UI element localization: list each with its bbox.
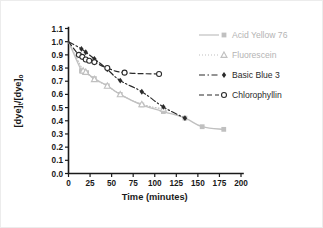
- legend-marker-2: [222, 72, 226, 78]
- legend-label-chlorophyllin[interactable]: Chlorophyllin: [232, 90, 282, 100]
- y-tick-label: 0.9: [52, 51, 64, 60]
- x-tick-label: 25: [86, 179, 96, 188]
- axis-lines: [69, 28, 244, 174]
- x-tick-label: 75: [129, 179, 139, 188]
- data-point-fluorescein: [139, 101, 145, 106]
- data-point-basic-blue-3: [79, 46, 83, 52]
- data-point-chlorophyllin: [105, 66, 110, 71]
- data-point-chlorophyllin: [122, 70, 127, 75]
- series-line-fluorescein: [69, 42, 164, 109]
- y-title-part-slash: /[dye]: [13, 78, 23, 103]
- x-tick-label: 125: [169, 179, 183, 188]
- x-tick-label: 100: [148, 179, 162, 188]
- x-tick-label: 175: [213, 179, 227, 188]
- x-tick-label: 150: [191, 179, 205, 188]
- y-tick-label: 0.4: [52, 117, 64, 126]
- legend-label-acid-yellow-76[interactable]: Acid Yellow 76: [232, 30, 288, 40]
- y-tick-label: 0.0: [52, 170, 64, 179]
- series-line-acid-yellow-76: [69, 42, 224, 130]
- x-tick-label: 200: [234, 179, 248, 188]
- data-point-basic-blue-3: [118, 78, 122, 84]
- y-tick-label: 0.5: [52, 104, 64, 113]
- data-point-chlorophyllin: [157, 71, 162, 76]
- data-point-acid-yellow-76: [221, 127, 226, 132]
- data-point-basic-blue-3: [140, 89, 144, 95]
- data-point-chlorophyllin: [87, 58, 92, 63]
- legend-label-basic-blue-3[interactable]: Basic Blue 3: [232, 70, 280, 80]
- legend-marker-1: [221, 52, 227, 57]
- y-title-sub-o: o: [17, 74, 24, 78]
- x-axis-title: Time (minutes): [122, 192, 188, 202]
- y-tick-label: 0.2: [52, 143, 64, 152]
- y-tick-label: 0.3: [52, 130, 64, 139]
- data-point-chlorophyllin: [92, 60, 97, 65]
- y-axis-title-text: [dye]t/[dye]o: [13, 74, 24, 127]
- x-tick-label: 50: [107, 179, 117, 188]
- legend-marker-0: [222, 33, 227, 38]
- y-tick-label: 0.6: [52, 90, 64, 99]
- y-tick-label: 0.7: [52, 77, 64, 86]
- chart-plot-area: 0.00.10.20.30.40.50.60.70.80.91.01.10255…: [1, 1, 323, 228]
- legend-label-fluorescein[interactable]: Fluorescein: [232, 50, 277, 60]
- y-title-part-main: [dye]: [13, 105, 23, 127]
- y-tick-label: 1.1: [52, 25, 64, 34]
- y-tick-label: 0.1: [52, 156, 64, 165]
- x-tick-label: 0: [66, 179, 71, 188]
- y-axis-title: [dye]t/[dye]o: [13, 74, 24, 127]
- legend-marker-3: [222, 93, 227, 98]
- y-tick-label: 0.8: [52, 64, 64, 73]
- y-tick-label: 1.0: [52, 38, 64, 47]
- data-point-acid-yellow-76: [200, 124, 205, 129]
- chart-figure: 0.00.10.20.30.40.50.60.70.80.91.01.10255…: [0, 0, 323, 228]
